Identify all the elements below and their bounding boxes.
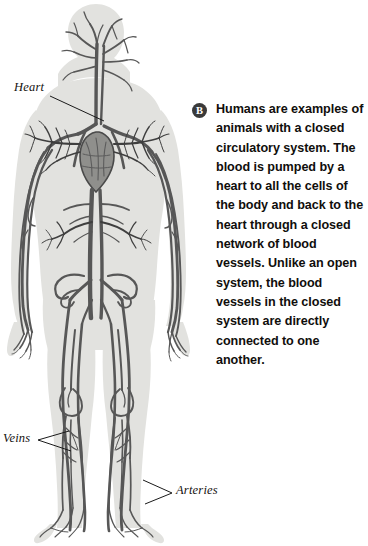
arteries-leader-line-lower [145,493,172,504]
arteries-leader-line-upper [143,480,172,493]
badge-letter: B [192,103,207,118]
caption-body-text: Humans are examples of animals with a cl… [192,100,364,370]
heart-label: Heart [14,80,44,95]
veins-label: Veins [3,431,30,446]
caption-panel: B Humans are examples of animals with a … [192,100,364,370]
circled-letter-b-icon: B [192,103,207,118]
arteries-label: Arteries [176,483,218,498]
figure-page: Heart Veins Arteries B Humans are exampl… [0,0,368,546]
